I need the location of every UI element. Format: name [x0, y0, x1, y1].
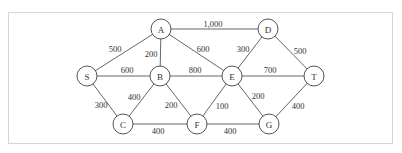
edge-weight-e-g: 200	[252, 91, 265, 101]
edge-weight-a-e: 600	[197, 44, 210, 54]
node-t: T	[304, 66, 324, 86]
edge-weight-e-t: 700	[264, 65, 277, 75]
node-label: F	[194, 120, 199, 130]
node-a: A	[151, 19, 171, 39]
edge-weight-b-e: 800	[189, 65, 202, 75]
edge-weight-a-b: 200	[145, 49, 158, 59]
edge-weight-s-c: 300	[95, 100, 108, 110]
graph-diagram: 5006003002006001,00040020080040030050070…	[0, 0, 402, 153]
edge-weight-d-e: 300	[237, 44, 250, 54]
node-f: F	[187, 114, 207, 134]
node-label: G	[266, 120, 273, 130]
node-label: B	[157, 72, 163, 82]
edge-weight-e-f: 100	[216, 101, 229, 111]
node-s: S	[77, 66, 97, 86]
node-label: D	[265, 25, 272, 35]
edge-weight-b-c: 400	[128, 92, 141, 102]
node-d: D	[258, 19, 278, 39]
edge-weight-f-g: 400	[224, 126, 237, 136]
node-label: S	[84, 72, 89, 82]
edge-weight-s-a: 500	[109, 44, 122, 54]
edge-weight-s-b: 600	[121, 65, 134, 75]
nodes-layer: SABCDEFGT	[77, 19, 324, 134]
edge-weight-b-f: 200	[165, 100, 178, 110]
node-label: E	[229, 72, 235, 82]
node-c: C	[113, 114, 133, 134]
edge-weight-g-t: 400	[292, 101, 305, 111]
edge-weight-c-f: 400	[152, 126, 165, 136]
node-label: T	[311, 72, 317, 82]
node-label: A	[158, 25, 165, 35]
node-e: E	[222, 66, 242, 86]
node-g: G	[259, 114, 279, 134]
edge-weight-d-t: 500	[294, 46, 307, 56]
node-b: B	[150, 66, 170, 86]
edge-weight-a-d: 1,000	[203, 19, 222, 29]
node-label: C	[120, 120, 126, 130]
